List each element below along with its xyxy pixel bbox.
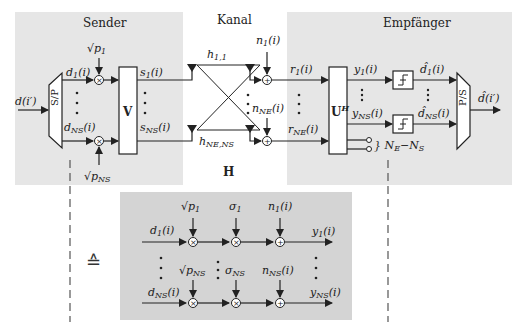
d1-label: d1(i) <box>66 66 90 80</box>
channel-matrix-label: H <box>223 165 234 179</box>
unused-label: } NE−NS <box>374 139 425 153</box>
svg-text:×: × <box>190 299 197 308</box>
output-label: d̂(i′) <box>478 91 500 105</box>
receiver-title: Empfänger <box>383 16 451 30</box>
nne-label: nNE(i) <box>252 102 284 116</box>
ps-label: P/S <box>457 89 468 106</box>
r1-label: r1(i) <box>290 63 312 77</box>
ps-block <box>457 73 470 149</box>
tx-antenna-icon <box>187 125 197 133</box>
s1-label: s1(i) <box>140 66 163 80</box>
tx-antenna-icon <box>187 64 197 72</box>
svg-text:+: + <box>264 76 271 85</box>
svg-text:×: × <box>233 299 240 308</box>
svg-text:×: × <box>233 238 240 247</box>
input-label: d(i′) <box>15 95 37 108</box>
sp-label: S/P <box>49 89 60 106</box>
equivalence-symbol: ≙ <box>86 251 101 272</box>
svg-text:×: × <box>96 137 103 146</box>
h11-label: h1,1 <box>207 48 227 62</box>
y1-label: y1(i) <box>353 63 377 77</box>
eq-y1-label: y1(i) <box>311 225 335 239</box>
precoder-label: V <box>122 105 133 119</box>
eq-d1-label: d1(i) <box>150 224 174 238</box>
channel-title: Kanal <box>217 13 252 27</box>
hnens-label: hNE,NS <box>199 135 234 149</box>
mimo-system-diagram: Sender Kanal Empfänger d(i′) S/P d1(i) ×… <box>0 0 523 332</box>
svg-text:×: × <box>190 238 197 247</box>
dhat1-label: d̂1(i) <box>420 62 444 77</box>
svg-text:+: + <box>277 299 284 308</box>
svg-text:+: + <box>264 137 271 146</box>
sender-title: Sender <box>83 16 127 30</box>
svg-text:×: × <box>96 76 103 85</box>
svg-text:+: + <box>277 238 284 247</box>
eq-n1-label: n1(i) <box>268 200 292 214</box>
sp-block <box>49 73 62 148</box>
n1-label: n1(i) <box>256 34 280 48</box>
